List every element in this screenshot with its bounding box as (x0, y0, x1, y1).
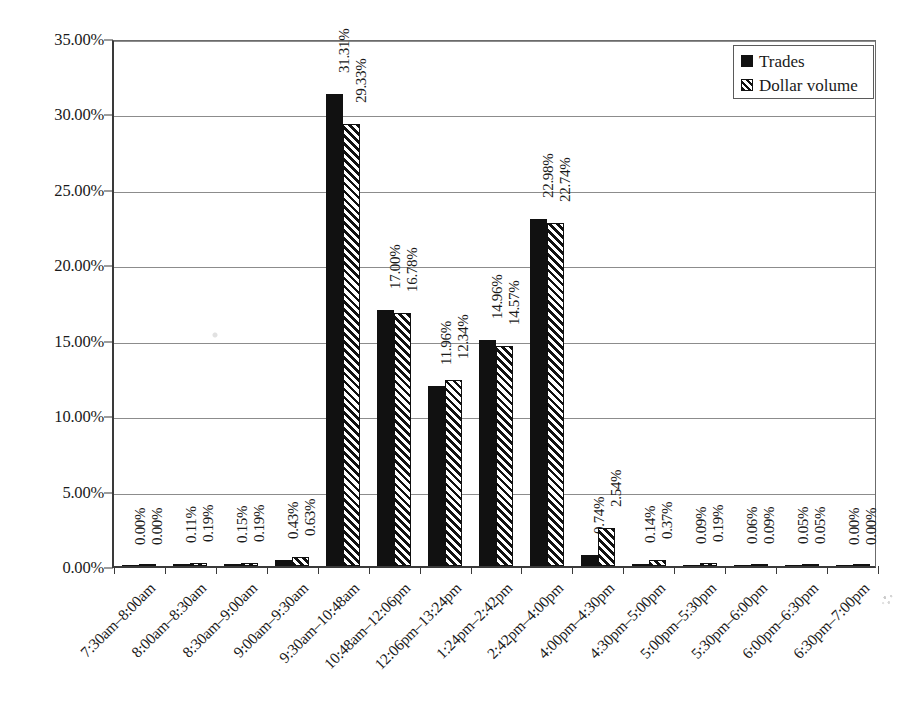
scan-artifact (210, 330, 220, 340)
value-label-trades: 0.06% (745, 507, 760, 544)
bar-dollar-volume-11 (700, 563, 717, 566)
bar-group: 22.98%22.74% (530, 41, 564, 566)
x-axis-tick-mark (369, 566, 370, 574)
legend-label-trades: Trades (759, 53, 805, 70)
bar-group: 17.00%16.78% (377, 41, 411, 566)
bar-dollar-volume-5 (394, 313, 411, 566)
bar-trades-4 (326, 94, 343, 566)
legend-swatch-trades-icon (741, 55, 753, 67)
bar-group: 0.15%0.19% (224, 41, 258, 566)
bar-group: 0.00%0.00% (836, 41, 870, 566)
bar-group: 0.00%0.00% (122, 41, 156, 566)
legend-label-dollar-volume: Dollar volume (759, 77, 858, 94)
bar-group: 11.96%12.34% (428, 41, 462, 566)
bar-dollar-volume-10 (649, 560, 666, 566)
value-label-dollar-volume: 0.00% (150, 508, 165, 545)
bar-dollar-volume-0 (139, 564, 156, 566)
value-label-trades: 0.09% (694, 506, 709, 543)
bar-trades-11 (683, 565, 700, 566)
y-axis-tick-label: 10.00% (8, 409, 104, 426)
bar-trades-13 (785, 565, 802, 566)
bar-dollar-volume-7 (496, 346, 513, 566)
value-label-trades: 11.96% (439, 321, 454, 365)
value-label-dollar-volume: 0.37% (660, 502, 675, 539)
scan-artifact (880, 592, 896, 606)
x-axis-category-label: 6:00pm–6:30pm (527, 580, 821, 705)
x-axis-tick-mark (623, 566, 624, 574)
bar-trades-10 (632, 564, 649, 566)
value-label-dollar-volume: 2.54% (609, 469, 624, 506)
bar-trades-6 (428, 386, 445, 566)
bar-dollar-volume-2 (241, 563, 258, 566)
value-label-trades: 0.05% (796, 507, 811, 544)
x-axis-tick-mark (267, 566, 268, 574)
value-label-dollar-volume: 14.57% (507, 281, 522, 325)
value-label-dollar-volume: 12.34% (456, 314, 471, 358)
bar-trades-3 (275, 560, 292, 566)
bar-group: 0.11%0.19% (173, 41, 207, 566)
value-label-dollar-volume: 0.63% (303, 498, 318, 535)
bar-trades-9 (581, 555, 598, 566)
x-axis-category-label: 10:48am–12:06pm (119, 580, 413, 705)
bar-dollar-volume-1 (190, 563, 207, 566)
x-axis-category-label: 4:30pm–5:00pm (374, 580, 668, 705)
x-axis-tick-mark (725, 566, 726, 574)
x-axis-tick-mark (878, 566, 879, 574)
bar-trades-0 (122, 565, 139, 566)
chart-legend: Trades Dollar volume (733, 45, 874, 99)
value-label-trades: 22.98% (541, 154, 556, 198)
value-label-trades: 14.96% (490, 275, 505, 319)
value-label-dollar-volume: 0.05% (813, 507, 828, 544)
bar-chart: 0.00%5.00%10.00%15.00%20.00%25.00%30.00%… (0, 0, 920, 705)
value-label-dollar-volume: 0.19% (201, 505, 216, 542)
x-axis-category-label: 12:06pm–13:24pm (170, 580, 464, 705)
bar-dollar-volume-6 (445, 380, 462, 566)
x-axis-category-label: 6:30pm–7:00pm (578, 580, 872, 705)
x-axis-tick-mark (318, 566, 319, 574)
bar-group: 0.06%0.09% (734, 41, 768, 566)
y-axis-tick-label: 30.00% (8, 107, 104, 124)
bar-trades-14 (836, 565, 853, 566)
legend-swatch-dollar-volume-icon (741, 79, 753, 91)
bar-group: 0.14%0.37% (632, 41, 666, 566)
x-axis-category-label: 4:00pm–4:30pm (323, 580, 617, 705)
x-axis-tick-mark (674, 566, 675, 574)
bar-group: 31.31%29.33% (326, 41, 360, 566)
value-label-trades: 0.11% (184, 507, 199, 544)
bar-dollar-volume-13 (802, 564, 819, 566)
y-axis-tick-label: 15.00% (8, 333, 104, 350)
bar-trades-8 (530, 219, 547, 566)
legend-item-dollar-volume: Dollar volume (741, 73, 866, 97)
x-axis-tick-mark (165, 566, 166, 574)
x-axis-tick-mark (420, 566, 421, 574)
value-label-trades: 0.15% (235, 506, 250, 543)
y-axis-tick-label: 5.00% (8, 484, 104, 501)
value-label-trades: 17.00% (388, 244, 403, 288)
bar-trades-5 (377, 310, 394, 566)
bar-group: 0.05%0.05% (785, 41, 819, 566)
x-axis-tick-mark (776, 566, 777, 574)
bar-dollar-volume-8 (547, 223, 564, 566)
value-label-trades: 31.31% (337, 28, 352, 72)
x-axis-tick-mark (471, 566, 472, 574)
x-axis-category-label: 1:24pm–2:42pm (221, 580, 515, 705)
x-axis-tick-mark (114, 566, 115, 574)
legend-item-trades: Trades (741, 49, 866, 73)
value-label-dollar-volume: 0.00% (864, 508, 879, 545)
x-axis-category-label: 2:42pm–4:00pm (272, 580, 566, 705)
value-label-dollar-volume: 0.09% (762, 506, 777, 543)
value-label-trades: 0.00% (133, 508, 148, 545)
x-axis-category-label: 5:30pm–6:00pm (476, 580, 770, 705)
x-axis-category-label: 5:00pm–5:30pm (425, 580, 719, 705)
bar-trades-12 (734, 565, 751, 566)
bar-trades-2 (224, 564, 241, 566)
y-axis-tick-label: 20.00% (8, 258, 104, 275)
plot-area: 0.00%0.00%0.11%0.19%0.15%0.19%0.43%0.63%… (112, 40, 876, 568)
value-label-dollar-volume: 0.19% (711, 505, 726, 542)
value-label-dollar-volume: 0.19% (252, 505, 267, 542)
y-axis: 0.00%5.00%10.00%15.00%20.00%25.00%30.00%… (0, 0, 104, 705)
value-label-dollar-volume: 29.33% (354, 58, 369, 102)
bar-dollar-volume-3 (292, 557, 309, 567)
bar-dollar-volume-9 (598, 528, 615, 566)
x-axis-category-label: 9:30am–10:48am (68, 580, 362, 705)
